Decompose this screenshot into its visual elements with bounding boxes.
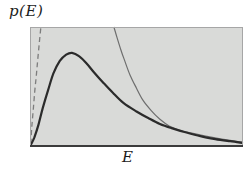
plot-background — [30, 27, 243, 146]
x-axis-label: E — [122, 150, 133, 165]
figure-p-of-E-distribution: p(E) E — [0, 0, 249, 177]
